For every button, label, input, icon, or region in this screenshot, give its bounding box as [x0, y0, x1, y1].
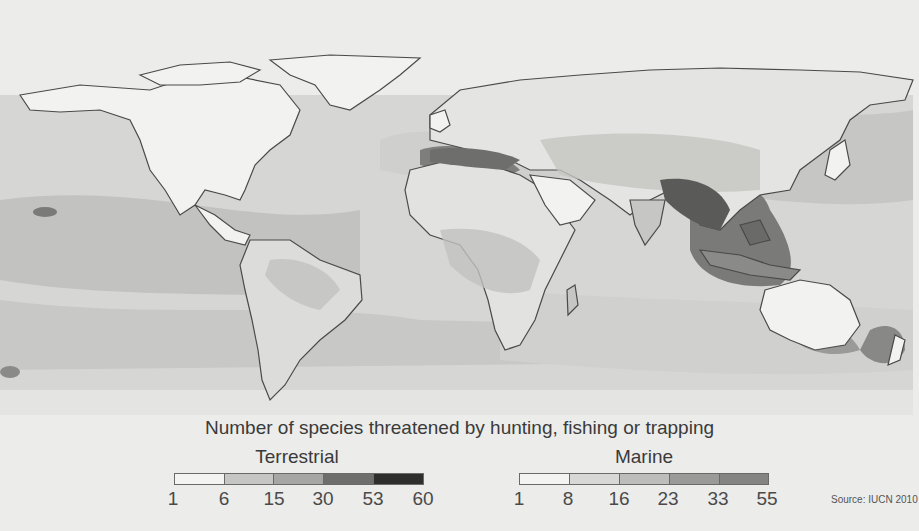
legend-marine-label: Marine [519, 446, 769, 468]
marine-swatch-2 [570, 474, 620, 484]
terrestrial-swatch-2 [225, 474, 274, 484]
terrestrial-tick: 1 [168, 488, 179, 510]
source-credit: Source: IUCN 2010 [831, 494, 918, 505]
marine-tick: 16 [608, 488, 629, 510]
terrestrial-swatch-4 [324, 474, 374, 484]
marine-swatch-4 [670, 474, 720, 484]
world-threat-map [0, 0, 919, 420]
map-title: Number of species threatened by hunting,… [0, 417, 919, 439]
marine-swatch-5 [720, 474, 768, 484]
marine-tick: 1 [514, 488, 525, 510]
terrestrial-tick: 15 [263, 488, 284, 510]
terrestrial-tick: 53 [362, 488, 383, 510]
marine-tick: 55 [756, 488, 777, 510]
marine-tick: 8 [563, 488, 574, 510]
terrestrial-tick: 60 [412, 488, 433, 510]
legend-marine-bar [519, 473, 769, 485]
marine-tick: 23 [657, 488, 678, 510]
terrestrial-swatch-5 [374, 474, 423, 484]
terrestrial-tick: 6 [219, 488, 230, 510]
marine-tick: 33 [707, 488, 728, 510]
legend-terrestrial-label: Terrestrial [172, 446, 422, 468]
terrestrial-tick: 30 [312, 488, 333, 510]
marine-swatch-3 [620, 474, 670, 484]
marine-swatch-1 [520, 474, 570, 484]
legend-terrestrial-bar [174, 473, 424, 485]
terrestrial-swatch-3 [274, 474, 324, 484]
terrestrial-swatch-1 [175, 474, 225, 484]
